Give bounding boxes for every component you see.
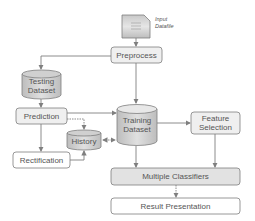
feature-selection-label: Feature Selection	[191, 112, 240, 134]
prediction-label: Prediction	[16, 108, 67, 124]
training-dataset-label: Training Dataset	[117, 114, 157, 136]
training-label-line2: Dataset	[123, 125, 151, 134]
history-label: History	[67, 135, 101, 148]
input-label-line1: Input	[155, 16, 174, 23]
edge-rectification-history	[70, 151, 84, 160]
multiple-classifiers-label: Multiple Classifiers	[111, 168, 240, 185]
edge-prediction-history	[67, 119, 84, 129]
feature-label-line2: Selection	[199, 123, 232, 132]
input-datafile-icon	[122, 15, 150, 38]
edge-preprocess-testing	[41, 56, 111, 69]
input-label-line2: Datafile	[155, 23, 174, 30]
result-presentation-label: Result Presentation	[111, 198, 240, 214]
preprocess-label: Preprocess	[111, 47, 162, 63]
training-label-line1: Training	[123, 116, 152, 125]
testing-label-line2: Dataset	[28, 86, 56, 95]
testing-label-line1: Testing	[29, 77, 54, 86]
feature-label-line1: Feature	[202, 114, 230, 123]
input-datafile-label: Input Datafile	[155, 16, 174, 30]
rectification-label: Rectification	[13, 152, 70, 168]
testing-dataset-label: Testing Dataset	[22, 76, 61, 96]
